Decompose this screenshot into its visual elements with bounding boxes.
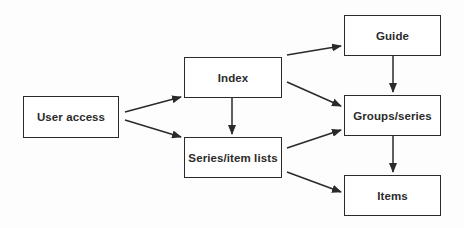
node-label: Items <box>377 190 408 202</box>
node-label: Guide <box>376 30 409 42</box>
node-label: Groups/series <box>353 110 432 122</box>
edge-index-to-guide <box>287 46 341 55</box>
node-items: Items <box>344 175 441 216</box>
node-label: User access <box>37 111 105 123</box>
edge-user-access-to-index <box>125 97 181 112</box>
node-index: Index <box>184 57 282 98</box>
node-groups-series: Groups/series <box>344 95 441 136</box>
node-guide: Guide <box>344 15 441 56</box>
edge-index-to-groups-series <box>287 82 341 106</box>
edge-series-item-lists-to-groups-series <box>287 130 341 148</box>
flow-diagram: User access Index Series/item lists Guid… <box>0 0 464 228</box>
node-label: Series/item lists <box>188 152 277 164</box>
node-series-item-lists: Series/item lists <box>184 137 282 178</box>
node-label: Index <box>218 72 249 84</box>
edge-series-item-lists-to-items <box>287 172 341 192</box>
node-user-access: User access <box>23 96 119 138</box>
edge-user-access-to-series-item-lists <box>125 120 181 137</box>
